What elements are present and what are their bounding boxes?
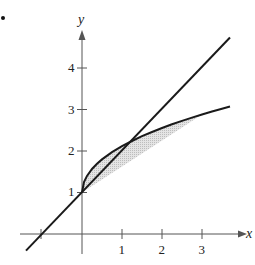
shaded-region (82, 115, 202, 193)
chart: 1 2 3 1 2 3 4 x y (0, 0, 255, 265)
y-axis-arrow-icon (79, 30, 86, 40)
x-tick-label-2: 2 (159, 242, 166, 257)
x-tick-label-1: 1 (119, 242, 126, 257)
y-tick-label-1: 1 (68, 184, 75, 199)
y-tick-label-2: 2 (68, 143, 75, 158)
x-tick-label-3: 3 (199, 242, 206, 257)
y-tick-label-3: 3 (68, 102, 75, 117)
x-axis-label: x (245, 226, 253, 241)
y-tick-label-4: 4 (68, 60, 75, 75)
y-axis-label: y (76, 12, 85, 27)
curve-sqrt (82, 107, 230, 193)
